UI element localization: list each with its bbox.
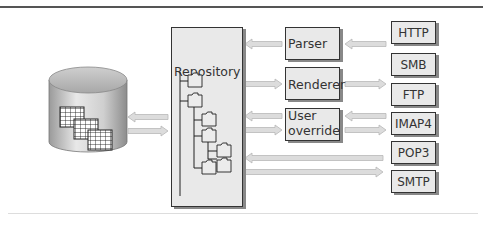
repository-box: Repository (171, 27, 243, 207)
protocol-http: HTTP (391, 21, 436, 44)
arrow-db-to-repo (128, 126, 168, 136)
protocol-label: SMB (400, 58, 426, 72)
folder-icon (217, 143, 231, 157)
arrow-override-to-imap (345, 125, 386, 135)
protocol-label: SMTP (397, 175, 430, 189)
protocol-label: POP3 (398, 146, 430, 160)
arrow-repo-to-smtp (245, 167, 383, 177)
arrow-renderer-to-ftp (345, 79, 386, 89)
protocol-label: IMAP4 (395, 117, 432, 131)
folder-icon (188, 93, 202, 107)
user-override-label-line1: User (288, 109, 317, 123)
database-icon (49, 67, 127, 152)
folder-tree-icon (172, 28, 244, 208)
arrow-repo-to-db (128, 112, 168, 122)
arrow-parser-to-repo (245, 39, 282, 49)
arrow-repo-to-renderer (245, 79, 282, 89)
arrow-imap-to-override (345, 111, 386, 121)
renderer-box: Renderer (285, 67, 340, 100)
arrow-override-to-repo (245, 111, 282, 121)
folder-icon (202, 160, 216, 174)
folder-icon (188, 73, 202, 87)
arrow-repo-to-override (245, 125, 282, 135)
protocol-label: HTTP (398, 26, 429, 40)
folder-icon (202, 128, 216, 142)
protocol-pop3: POP3 (391, 141, 436, 164)
protocol-imap4: IMAP4 (391, 112, 436, 135)
user-override-label-line2: override (288, 124, 340, 138)
parser-box: Parser (285, 27, 340, 60)
folder-icon (217, 158, 231, 172)
protocol-smtp: SMTP (391, 170, 436, 193)
protocol-smb: SMB (391, 53, 436, 76)
renderer-label: Renderer (288, 77, 345, 92)
arrow-http-to-parser (345, 39, 386, 49)
parser-label: Parser (288, 36, 327, 51)
user-override-box: User override (285, 108, 340, 141)
protocol-ftp: FTP (391, 83, 436, 106)
folder-icon (202, 112, 216, 126)
arrow-pop3-to-repo (245, 153, 383, 163)
protocol-label: FTP (403, 88, 424, 102)
